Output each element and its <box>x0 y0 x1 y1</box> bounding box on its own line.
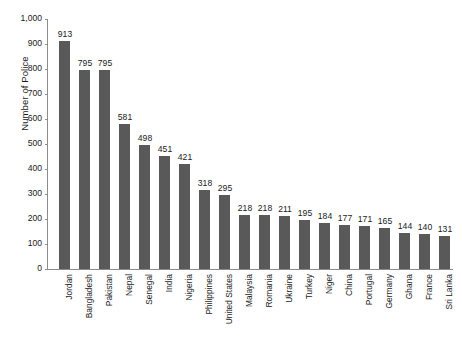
x-axis-label: Niger <box>324 274 334 294</box>
y-axis-tick-label: 500 <box>28 138 42 149</box>
bar[interactable] <box>179 164 190 269</box>
bar[interactable] <box>299 220 310 269</box>
x-axis-label-slot: Senegal <box>134 271 154 341</box>
bar-value-label: 218 <box>238 203 252 213</box>
bar-item[interactable]: 795 <box>75 19 95 269</box>
bar-value-label: 913 <box>58 29 72 39</box>
x-axis-label: Ukraine <box>284 274 294 303</box>
x-axis-label: Nigeria <box>184 274 194 301</box>
bar-value-label: 184 <box>318 211 332 221</box>
x-axis-label-slot: Romania <box>254 271 274 341</box>
bar[interactable] <box>199 190 210 270</box>
bar-item[interactable]: 177 <box>335 19 355 269</box>
bar[interactable] <box>99 70 110 269</box>
x-axis-label: Philippines <box>204 274 214 315</box>
bar[interactable] <box>379 228 390 269</box>
bar-item[interactable]: 144 <box>395 19 415 269</box>
bar-item[interactable]: 165 <box>375 19 395 269</box>
y-axis-tick-label: 300 <box>28 188 42 199</box>
x-axis-label: Romania <box>264 274 274 308</box>
y-axis-tick-label: 400 <box>28 163 42 174</box>
x-axis-label-slot: Niger <box>314 271 334 341</box>
bar-item[interactable]: 795 <box>95 19 115 269</box>
bar[interactable] <box>139 145 150 270</box>
bar-item[interactable]: 195 <box>295 19 315 269</box>
bar-item[interactable]: 131 <box>435 19 455 269</box>
bar-value-label: 218 <box>258 203 272 213</box>
bar-value-label: 295 <box>218 183 232 193</box>
x-axis-label-slot: India <box>154 271 174 341</box>
x-axis-label: Germany <box>384 274 394 308</box>
x-axis-label: Turkey <box>304 274 314 299</box>
y-axis-tick-label: 800 <box>28 63 42 74</box>
y-axis-tick-label: 200 <box>28 213 42 224</box>
bar[interactable] <box>239 215 250 270</box>
bar-item[interactable]: 421 <box>175 19 195 269</box>
bar-value-label: 165 <box>378 216 392 226</box>
bar-value-label: 177 <box>338 213 352 223</box>
bar[interactable] <box>319 223 330 269</box>
bar[interactable] <box>419 234 430 269</box>
bar-item[interactable]: 498 <box>135 19 155 269</box>
bar-item[interactable]: 184 <box>315 19 335 269</box>
y-axis-tick-label: 1,000 <box>20 13 42 24</box>
bar-value-label: 421 <box>178 152 192 162</box>
y-axis-tick-label: 900 <box>28 38 42 49</box>
x-axis-label: Jordan <box>64 274 74 300</box>
x-axis-label-slot: Malaysia <box>234 271 254 341</box>
x-axis-label-slot: Pakistan <box>94 271 114 341</box>
x-axis-label: United States <box>224 274 234 324</box>
bar-item[interactable]: 581 <box>115 19 135 269</box>
bar[interactable] <box>439 236 450 269</box>
x-axis-label-slot: Sri Lanka <box>434 271 454 341</box>
bar-value-label: 795 <box>98 58 112 68</box>
bar-value-label: 795 <box>78 58 92 68</box>
x-axis-label: France <box>424 274 434 300</box>
bar-item[interactable]: 913 <box>55 19 75 269</box>
x-axis-label-slot: Jordan <box>54 271 74 341</box>
bar-item[interactable]: 218 <box>235 19 255 269</box>
bar-value-label: 171 <box>358 214 372 224</box>
bar[interactable] <box>279 216 290 269</box>
bar-value-label: 131 <box>438 224 452 234</box>
bar-value-label: 144 <box>398 221 412 231</box>
bar[interactable] <box>399 233 410 269</box>
bar-item[interactable]: 295 <box>215 19 235 269</box>
bar-item[interactable]: 451 <box>155 19 175 269</box>
bar[interactable] <box>359 226 370 269</box>
bar[interactable] <box>79 70 90 269</box>
bar[interactable] <box>159 156 170 269</box>
x-axis-label: Malaysia <box>244 274 254 307</box>
bar-value-label: 318 <box>198 178 212 188</box>
x-axis-label-slot: France <box>414 271 434 341</box>
bar-chart: Number of Police 01002003004005006007008… <box>0 0 462 343</box>
x-axis-label: Ghana <box>404 274 414 299</box>
bar-item[interactable]: 171 <box>355 19 375 269</box>
bar[interactable] <box>259 215 270 270</box>
bar-item[interactable]: 140 <box>415 19 435 269</box>
bar-item[interactable]: 318 <box>195 19 215 269</box>
y-axis-tick-label: 0 <box>37 263 42 274</box>
bar[interactable] <box>219 195 230 269</box>
x-axis-label-slot: Nigeria <box>174 271 194 341</box>
bar[interactable] <box>59 41 70 269</box>
x-axis-label-slot: United States <box>214 271 234 341</box>
x-axis-label-slot: Philippines <box>194 271 214 341</box>
x-axis-label: China <box>344 274 354 296</box>
x-axis-label-slot: Turkey <box>294 271 314 341</box>
bar[interactable] <box>119 124 130 269</box>
x-axis-label: Pakistan <box>104 274 114 306</box>
y-axis-tick-label: 100 <box>28 238 42 249</box>
x-axis-label-slot: Portugal <box>354 271 374 341</box>
x-axis-label-slot: Nepal <box>114 271 134 341</box>
bar[interactable] <box>339 225 350 269</box>
bar-value-label: 211 <box>278 204 292 214</box>
bar-item[interactable]: 218 <box>255 19 275 269</box>
x-axis-label: India <box>164 274 174 292</box>
x-axis-label-slot: Ghana <box>394 271 414 341</box>
bar-item[interactable]: 211 <box>275 19 295 269</box>
x-axis-label: Bangladesh <box>84 274 94 318</box>
bar-value-label: 195 <box>298 208 312 218</box>
x-axis-label-slot: Bangladesh <box>74 271 94 341</box>
x-axis-label: Sri Lanka <box>444 274 454 309</box>
